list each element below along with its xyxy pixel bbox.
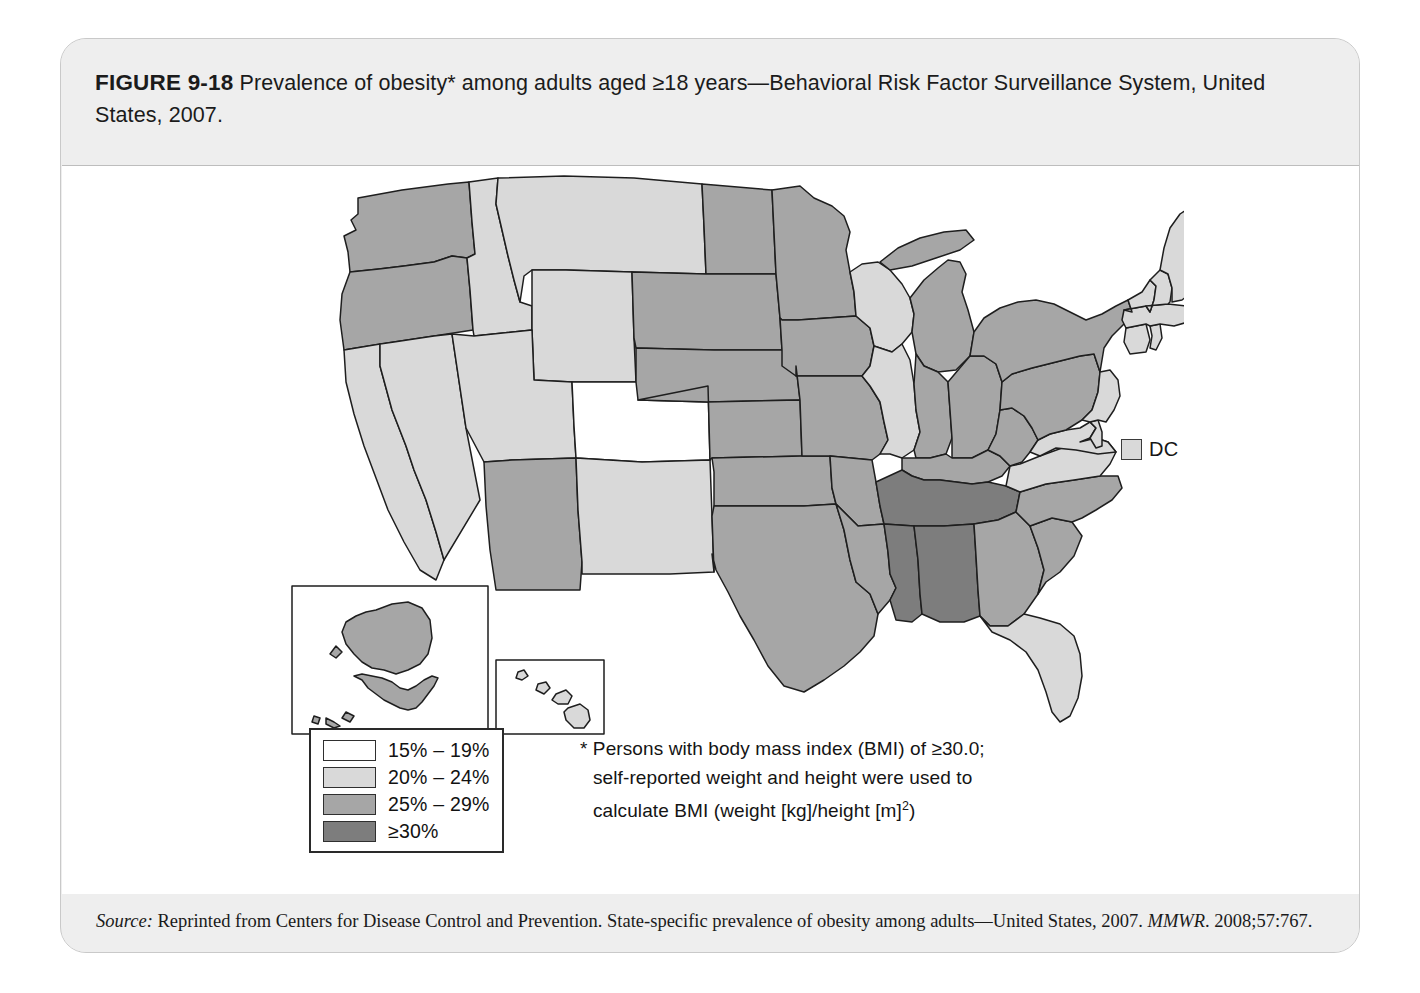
map-legend: 15% – 19% 20% – 24% 25% – 29% ≥30% xyxy=(309,728,504,853)
map-container: DC 15% – 19% 20% – 24% 25% – 29% xyxy=(62,166,1360,895)
source-body-a: Reprinted from Centers for Disease Contr… xyxy=(153,911,1148,931)
legend-item-label: ≥30% xyxy=(388,820,439,843)
source-text: Source: Reprinted from Centers for Disea… xyxy=(96,908,1326,934)
state-IA xyxy=(780,316,874,376)
state-MN xyxy=(772,186,856,320)
state-ND xyxy=(702,184,776,274)
state-SD xyxy=(632,272,782,350)
legend-item: 20% – 24% xyxy=(323,766,492,788)
state-CT xyxy=(1124,324,1150,354)
legend-item: ≥30% xyxy=(323,820,492,842)
footnote-line-3: calculate BMI (weight [kg]/height [m]2) xyxy=(580,792,1100,825)
dc-label: DC xyxy=(1149,438,1179,461)
footnote-line-1: * Persons with body mass index (BMI) of … xyxy=(580,734,1100,763)
footnote-line-3-post: ) xyxy=(909,800,915,821)
figure-caption: FIGURE 9-18 Prevalence of obesity* among… xyxy=(95,67,1325,131)
source-body-b: . 2008;57:767. xyxy=(1205,911,1312,931)
state-RI xyxy=(1150,324,1162,350)
source-journal: MMWR xyxy=(1148,911,1206,931)
footnote-exponent: 2 xyxy=(902,799,909,813)
us-choropleth-map xyxy=(284,170,1184,745)
figure-number: FIGURE 9-18 xyxy=(95,70,234,95)
figure-page: FIGURE 9-18 Prevalence of obesity* among… xyxy=(0,0,1420,993)
legend-item-label: 20% – 24% xyxy=(388,766,490,789)
map-panel: DC 15% – 19% 20% – 24% 25% – 29% xyxy=(62,165,1360,895)
figure-caption-text: Prevalence of obesity* among adults aged… xyxy=(95,71,1265,127)
state-NM xyxy=(576,458,714,574)
state-AL xyxy=(914,524,980,622)
legend-item: 15% – 19% xyxy=(323,739,492,761)
footnote-line-3-pre: calculate BMI (weight [kg]/height [m] xyxy=(593,800,902,821)
state-WY xyxy=(532,270,636,382)
legend-swatch-icon xyxy=(323,767,376,788)
state-OK xyxy=(712,456,836,506)
caption-band: FIGURE 9-18 Prevalence of obesity* among… xyxy=(61,39,1359,145)
footnote-line-2: self-reported weight and height were use… xyxy=(580,763,1100,792)
legend-item-label: 15% – 19% xyxy=(388,739,490,762)
legend-item-label: 25% – 29% xyxy=(388,793,490,816)
state-shapes xyxy=(292,176,1184,734)
state-AZ xyxy=(484,458,582,590)
legend-swatch-icon xyxy=(323,794,376,815)
source-label: Source: xyxy=(96,911,153,931)
dc-marker: DC xyxy=(1121,438,1179,461)
legend-item: 25% – 29% xyxy=(323,793,492,815)
state-FL xyxy=(980,614,1082,722)
map-footnote: * Persons with body mass index (BMI) of … xyxy=(580,734,1100,825)
state-NE xyxy=(636,348,800,402)
legend-swatch-icon xyxy=(323,740,376,761)
source-band: Source: Reprinted from Centers for Disea… xyxy=(62,894,1360,952)
figure-card: FIGURE 9-18 Prevalence of obesity* among… xyxy=(60,38,1360,953)
legend-swatch-icon xyxy=(323,821,376,842)
dc-swatch-icon xyxy=(1121,439,1142,460)
